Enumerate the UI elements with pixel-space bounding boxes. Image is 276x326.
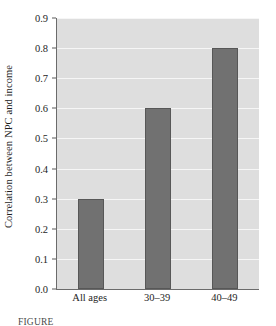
- figure-caption: FIGURE: [18, 317, 268, 326]
- y-axis-tick-label: 0.2: [35, 223, 48, 234]
- x-axis-tick-label: 30–39: [144, 292, 170, 303]
- bar: [78, 199, 104, 289]
- y-axis-tick-label: 0.4: [35, 163, 48, 174]
- y-axis-title: Correlation between NPC and income: [0, 0, 18, 292]
- y-axis-title-text: Correlation between NPC and income: [4, 64, 15, 227]
- bar: [212, 48, 238, 289]
- y-axis-tick-label: 0.1: [35, 253, 48, 264]
- y-axis-tick-label: 0.0: [35, 284, 48, 295]
- y-axis-tick-label: 0.6: [35, 103, 48, 114]
- x-axis-tick-labels: All ages30–3940–49: [56, 292, 258, 308]
- bar-series: [57, 18, 259, 289]
- figure-bar-chart: Correlation between NPC and income 0.00.…: [0, 0, 276, 326]
- bar: [145, 108, 171, 289]
- plot-area: [56, 18, 259, 290]
- y-axis-tick-label: 0.9: [35, 13, 48, 24]
- y-axis-tick-label: 0.3: [35, 193, 48, 204]
- y-axis-tick-label: 0.5: [35, 133, 48, 144]
- y-axis-tick-label: 0.8: [35, 43, 48, 54]
- x-axis-tick-label: All ages: [72, 292, 107, 303]
- y-axis-tick-label: 0.7: [35, 73, 48, 84]
- y-axis-tick-labels: 0.00.10.20.30.40.50.60.70.80.9: [18, 18, 52, 289]
- x-axis-tick-label: 40–49: [211, 292, 237, 303]
